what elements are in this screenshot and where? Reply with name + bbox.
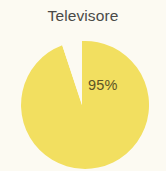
pie-slice-main-label: 95% (88, 77, 118, 93)
pie-chart-figure: Televisore 95% (0, 0, 166, 171)
pie-slice-main[interactable] (21, 41, 149, 169)
pie-chart-svg (0, 0, 166, 171)
pie-chart-area: 95% (0, 0, 166, 171)
